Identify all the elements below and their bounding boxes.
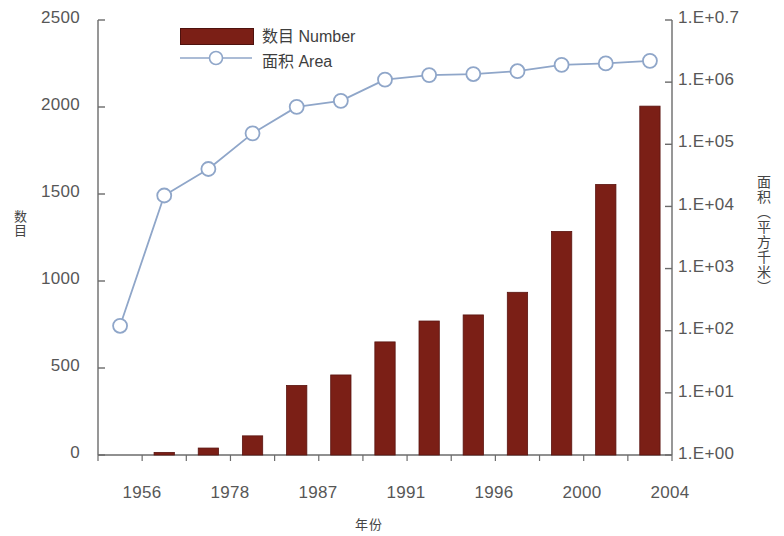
line-marker [113,319,127,333]
bar [331,375,351,455]
bar [596,184,616,455]
line-marker [555,58,569,72]
chart-figure: 2500 2000 1500 1000 500 0 数目 1.E+0.7 1.E… [0,0,784,536]
bar [375,342,395,455]
bar [507,292,527,455]
line-marker [157,188,171,202]
line-marker [422,68,436,82]
line-marker [334,94,348,108]
bar [242,436,262,455]
bar [154,452,174,455]
plot-area [0,0,784,536]
bar [287,385,307,455]
line-marker [246,126,260,140]
line-marker [378,73,392,87]
bar [640,106,660,455]
bar [463,315,483,455]
line-marker [510,64,524,78]
bar [551,231,571,455]
line-marker [643,54,657,68]
line-marker [599,56,613,70]
line-marker [466,67,480,81]
line-marker [201,162,215,176]
line-marker [290,100,304,114]
bar [419,321,439,455]
bar [198,448,218,455]
